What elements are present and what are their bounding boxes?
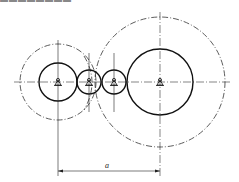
gear-train-drawing: a — [0, 0, 239, 182]
dimension-label: a — [105, 161, 109, 170]
arrow-right-icon — [155, 170, 160, 173]
arrow-left-icon — [58, 170, 63, 173]
